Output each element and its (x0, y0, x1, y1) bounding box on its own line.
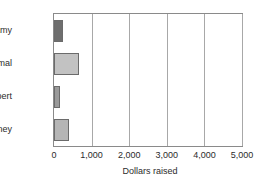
gridline (129, 14, 130, 146)
bar (54, 119, 69, 141)
bar (54, 86, 60, 108)
x-tick-label: 4,000 (193, 150, 216, 160)
x-tick-label: 2,000 (118, 150, 141, 160)
y-axis-label-jamal: Jamal (0, 58, 12, 68)
gridline (167, 14, 168, 146)
y-axis-label-robert: Robert (0, 91, 12, 101)
x-axis-title: Dollars raised (0, 166, 260, 177)
x-tick-label: 5,000 (231, 150, 254, 160)
plot-area (53, 13, 243, 147)
bar-chart: AmyJamalRobertCourtney 01,0002,0003,0004… (0, 0, 260, 183)
y-axis-label-courtney: Courtney (0, 124, 12, 134)
gridline (204, 14, 205, 146)
x-tick-label: 3,000 (156, 150, 179, 160)
bar (54, 53, 79, 75)
y-axis-label-amy: Amy (0, 25, 12, 35)
gridline (242, 14, 243, 146)
x-tick-label: 1,000 (80, 150, 103, 160)
x-axis-title-text: Dollars raised (122, 166, 177, 176)
gridline (92, 14, 93, 146)
bar (54, 20, 63, 42)
x-tick-label: 0 (51, 150, 56, 160)
